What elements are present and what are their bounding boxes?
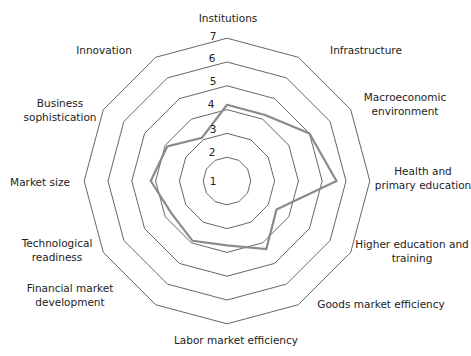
axis-label-line: Goods market efficiency [317, 297, 444, 311]
series-line-0 [151, 105, 337, 249]
tick-label-3: 3 [210, 123, 217, 135]
axis-label-institutions: Institutions [199, 11, 258, 25]
grid-ring-3 [179, 133, 274, 228]
tick-label-2: 2 [209, 146, 216, 158]
grid-ring-4 [156, 110, 299, 253]
tick-label-4: 4 [208, 98, 215, 110]
tick-label-1: 1 [210, 175, 217, 187]
axis-label-line: Financial market [27, 281, 114, 295]
axis-label-health-and-primary-education: Health andprimary education [375, 164, 471, 192]
axis-label-line: Business [24, 96, 97, 110]
axis-label-line: Institutions [199, 11, 258, 25]
axis-label-line: Innovation [76, 43, 132, 57]
axis-label-line: training [355, 251, 468, 265]
axis-label-macroeconomic-environment: Macroeconomicenvironment [364, 90, 446, 118]
axis-label-line: Macroeconomic [364, 90, 446, 104]
axis-label-line: Market size [10, 175, 70, 189]
axis-label-business-sophistication: Businesssophistication [24, 96, 97, 124]
grid-ring-5 [132, 86, 322, 276]
axis-label-market-size: Market size [10, 175, 70, 189]
tick-label-5: 5 [210, 75, 217, 87]
axis-label-line: readiness [22, 250, 93, 264]
axis-label-infrastructure: Infrastructure [330, 43, 402, 57]
axis-label-goods-market-efficiency: Goods market efficiency [317, 297, 444, 311]
axis-label-innovation: Innovation [76, 43, 132, 57]
axis-label-line: development [27, 295, 114, 309]
axis-label-higher-education-and-training: Higher education andtraining [355, 237, 468, 265]
axis-label-line: Technological [22, 236, 93, 250]
axis-label-line: environment [364, 104, 446, 118]
tick-label-7: 7 [210, 30, 217, 42]
axis-label-line: Health and [375, 164, 471, 178]
radar-grid [84, 38, 370, 324]
axis-label-financial-market-development: Financial marketdevelopment [27, 281, 114, 309]
axis-label-line: Higher education and [355, 237, 468, 251]
radar-series [151, 105, 337, 249]
axis-label-technological-readiness: Technologicalreadiness [22, 236, 93, 264]
axis-label-line: sophistication [24, 110, 97, 124]
axis-label-line: Labor market efficiency [174, 333, 298, 347]
axis-label-line: Infrastructure [330, 43, 402, 57]
axis-label-line: primary education [375, 178, 471, 192]
grid-ring-6 [108, 62, 346, 300]
tick-label-6: 6 [209, 52, 216, 64]
axis-label-labor-market-efficiency: Labor market efficiency [174, 333, 298, 347]
grid-ring-7 [84, 38, 370, 324]
